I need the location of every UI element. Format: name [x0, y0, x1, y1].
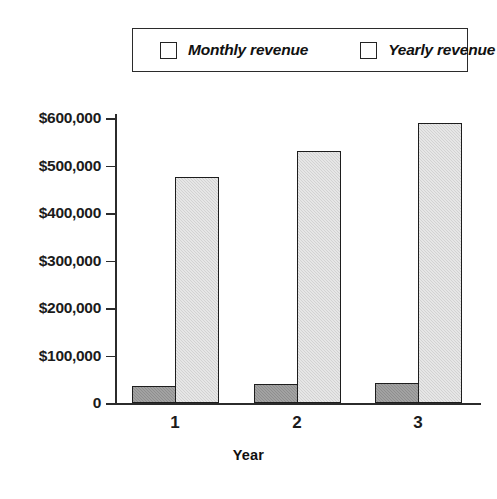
x-axis-tick-label-3: 3 — [413, 413, 422, 433]
bar-monthly-revenue-year-1 — [132, 386, 176, 403]
x-axis-line — [115, 403, 481, 405]
bar-yearly-revenue-year-3 — [418, 123, 462, 403]
bar-chart: Monthly revenue Yearly revenue $600,000$… — [0, 0, 497, 499]
y-axis-tick-mark — [106, 261, 115, 263]
y-axis-tick-label: $300,000 — [39, 252, 101, 270]
x-axis-title: Year — [0, 447, 497, 463]
x-axis-tick-label-2: 2 — [292, 413, 301, 433]
bar-monthly-revenue-year-2 — [254, 384, 298, 403]
y-axis-tick-label: 0 — [93, 394, 101, 412]
y-axis-tick-label: $500,000 — [39, 157, 101, 175]
legend-item-monthly-revenue[interactable]: Monthly revenue — [160, 41, 308, 59]
bar-yearly-revenue-year-2 — [297, 151, 341, 403]
legend-label-yearly: Yearly revenue — [388, 41, 495, 59]
y-axis-tick-mark — [106, 356, 115, 358]
legend-item-yearly-revenue[interactable]: Yearly revenue — [360, 41, 495, 59]
plot-area: $600,000$500,000$400,000$300,000$200,000… — [115, 118, 480, 403]
bar-monthly-revenue-year-3 — [375, 383, 419, 403]
y-axis-tick-mark — [106, 213, 115, 215]
y-axis-tick-mark — [106, 166, 115, 168]
y-axis-tick-label: $600,000 — [39, 109, 101, 127]
chart-legend: Monthly revenue Yearly revenue — [132, 28, 468, 72]
y-axis-tick-mark — [106, 403, 115, 405]
y-axis-tick-mark — [106, 118, 115, 120]
y-axis-tick-label: $400,000 — [39, 204, 101, 222]
legend-swatch-yearly-icon — [360, 42, 377, 59]
y-axis-tick-label: $100,000 — [39, 347, 101, 365]
x-axis-tick-label-1: 1 — [170, 413, 179, 433]
y-axis-tick-mark — [106, 308, 115, 310]
legend-label-monthly: Monthly revenue — [188, 41, 308, 59]
legend-swatch-monthly-icon — [160, 42, 177, 59]
bar-yearly-revenue-year-1 — [175, 177, 219, 403]
y-axis-tick-label: $200,000 — [39, 299, 101, 317]
